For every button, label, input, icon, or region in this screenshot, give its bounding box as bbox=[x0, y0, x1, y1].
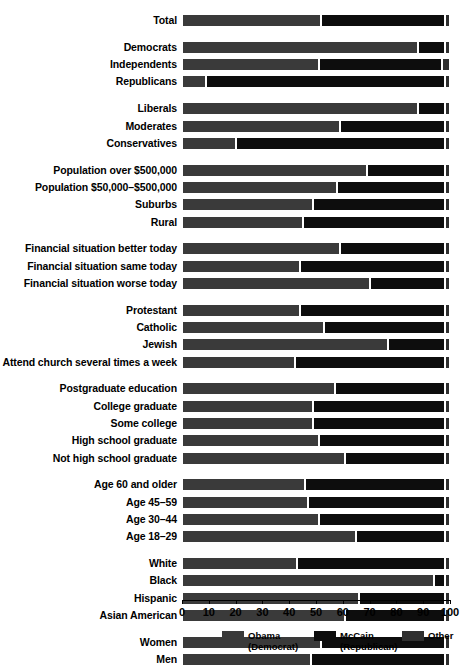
chart-bar bbox=[182, 557, 450, 570]
chart-bar bbox=[182, 400, 450, 413]
bar-segment-obama bbox=[182, 434, 319, 447]
chart-row: Attend church several times a week bbox=[0, 355, 473, 370]
chart-row-label: Moderates bbox=[125, 119, 177, 134]
chart-bar bbox=[182, 277, 450, 290]
chart-row-label: White bbox=[149, 556, 177, 571]
x-axis-tick-label: 70 bbox=[355, 606, 385, 618]
chart-bar bbox=[182, 58, 450, 71]
chart-bar bbox=[182, 452, 450, 465]
x-axis-tick bbox=[423, 600, 424, 604]
bar-segment-mccain bbox=[313, 198, 444, 211]
bar-segment-mccain bbox=[324, 321, 445, 334]
chart-bar bbox=[182, 417, 450, 430]
chart-row-label: Some college bbox=[111, 416, 178, 431]
bar-segment-other bbox=[445, 102, 450, 115]
chart-row: Republicans bbox=[0, 74, 473, 89]
legend-text: Other bbox=[428, 630, 453, 641]
bar-segment-other bbox=[445, 382, 450, 395]
chart-row-label: Postgraduate education bbox=[60, 381, 177, 396]
x-axis-tick-label: 50 bbox=[301, 606, 331, 618]
bar-segment-other bbox=[445, 530, 450, 543]
bar-segment-other bbox=[445, 242, 450, 255]
chart-row-label: Attend church several times a week bbox=[2, 355, 177, 370]
bar-segment-mccain bbox=[321, 14, 444, 27]
chart-row-label: Financial situation same today bbox=[27, 259, 177, 274]
legend-swatch bbox=[222, 631, 244, 641]
bar-segment-obama bbox=[182, 356, 295, 369]
chart-row: Age 18–29 bbox=[0, 529, 473, 544]
x-axis-tick-label: 60 bbox=[328, 606, 358, 618]
chart-row-label: Suburbs bbox=[135, 197, 177, 212]
bar-segment-other bbox=[445, 304, 450, 317]
chart-row: Financial situation better today bbox=[0, 241, 473, 256]
legend-item: McCain(Republican) bbox=[314, 630, 398, 652]
bar-segment-obama bbox=[182, 321, 324, 334]
bar-segment-mccain bbox=[345, 452, 444, 465]
bar-segment-obama bbox=[182, 338, 388, 351]
bar-segment-mccain bbox=[337, 181, 444, 194]
bar-segment-other bbox=[445, 417, 450, 430]
chart-bar bbox=[182, 356, 450, 369]
chart-row-label: Conservatives bbox=[107, 136, 178, 151]
bar-segment-mccain bbox=[300, 260, 445, 273]
bar-segment-mccain bbox=[319, 58, 442, 71]
bar-segment-mccain bbox=[340, 120, 445, 133]
chart-row: Liberals bbox=[0, 101, 473, 116]
chart-bar bbox=[182, 382, 450, 395]
legend-sublabel: (Republican) bbox=[340, 641, 398, 652]
chart-row-label: Financial situation worse today bbox=[24, 276, 177, 291]
chart-row-label: Jewish bbox=[143, 337, 177, 352]
chart-bar bbox=[182, 530, 450, 543]
chart-row: White bbox=[0, 556, 473, 571]
bar-segment-obama bbox=[182, 181, 337, 194]
chart-row: High school graduate bbox=[0, 433, 473, 448]
bar-segment-other bbox=[445, 513, 450, 526]
bar-segment-mccain bbox=[418, 102, 445, 115]
chart-row: Democrats bbox=[0, 40, 473, 55]
x-axis-tick bbox=[236, 600, 237, 604]
bar-segment-obama bbox=[182, 242, 340, 255]
x-axis-tick bbox=[370, 600, 371, 604]
bar-segment-other bbox=[445, 216, 450, 229]
chart-row-label: Protestant bbox=[126, 303, 177, 318]
legend-label: McCain bbox=[340, 630, 374, 641]
chart-row: Jewish bbox=[0, 337, 473, 352]
bar-segment-obama bbox=[182, 574, 434, 587]
x-axis-tick bbox=[450, 600, 451, 604]
bar-segment-obama bbox=[182, 164, 367, 177]
x-axis-tick-label: 30 bbox=[247, 606, 277, 618]
x-axis-tick bbox=[289, 600, 290, 604]
bar-segment-mccain bbox=[434, 574, 445, 587]
x-axis-tick-label: 10 bbox=[194, 606, 224, 618]
bar-segment-mccain bbox=[356, 530, 444, 543]
bar-segment-other bbox=[445, 14, 450, 27]
bar-segment-other bbox=[445, 496, 450, 509]
bar-segment-other bbox=[445, 321, 450, 334]
chart-row-label: Age 45–59 bbox=[126, 495, 177, 510]
chart-legend: Obama(Democrat)McCain(Republican)Other bbox=[182, 630, 462, 660]
bar-segment-other bbox=[445, 181, 450, 194]
x-axis-tick-label: 40 bbox=[274, 606, 304, 618]
chart-bar bbox=[182, 513, 450, 526]
chart-row: Protestant bbox=[0, 303, 473, 318]
bar-segment-other bbox=[445, 478, 450, 491]
legend-text: McCain(Republican) bbox=[340, 630, 398, 652]
legend-swatch bbox=[314, 631, 336, 641]
chart-row: Total bbox=[0, 13, 473, 28]
bar-segment-obama bbox=[182, 198, 313, 211]
chart-row: Moderates bbox=[0, 119, 473, 134]
chart-bar bbox=[182, 321, 450, 334]
chart-row-label: Hispanic bbox=[134, 591, 177, 606]
chart-row: Some college bbox=[0, 416, 473, 431]
chart-row-label: Black bbox=[149, 573, 177, 588]
chart-bar bbox=[182, 164, 450, 177]
legend-label: Obama bbox=[248, 630, 280, 641]
bar-segment-mccain bbox=[367, 164, 445, 177]
chart-row-label: Population $50,000–$500,000 bbox=[35, 180, 177, 195]
legend-text: Obama(Democrat) bbox=[248, 630, 298, 652]
chart-row: Age 60 and older bbox=[0, 477, 473, 492]
bar-segment-obama bbox=[182, 137, 236, 150]
x-axis-tick bbox=[316, 600, 317, 604]
bar-segment-obama bbox=[182, 41, 418, 54]
bar-segment-obama bbox=[182, 496, 308, 509]
